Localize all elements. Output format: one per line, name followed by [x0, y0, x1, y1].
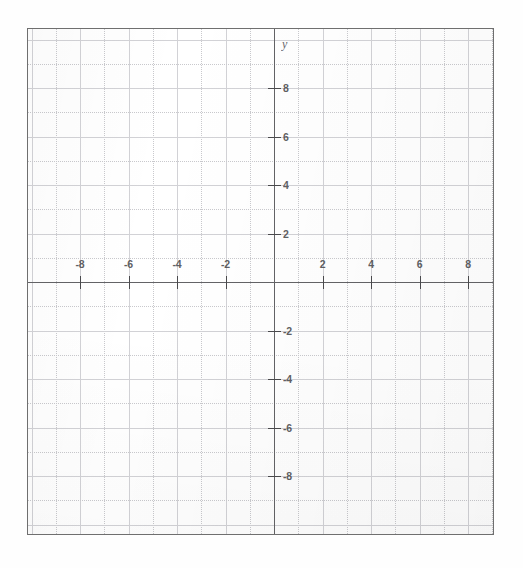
y-axis-label: y: [282, 37, 287, 52]
y-axis-tick-label: 6: [283, 131, 289, 143]
coordinate-plane-frame: -8-6-4-224688642-2-4-6-8 y x: [27, 28, 494, 535]
y-axis-tick-label: -4: [283, 373, 292, 385]
y-axis-tick-label: -2: [283, 325, 292, 337]
y-axis-tick-label: -8: [283, 470, 292, 482]
y-axis-tick: [268, 428, 281, 429]
x-axis-tick-label: -2: [221, 258, 230, 270]
y-axis-tick: [268, 331, 281, 332]
x-axis-tick-label: 8: [465, 258, 471, 270]
x-axis-tick: [177, 276, 178, 289]
y-axis-line: [274, 29, 275, 534]
x-axis-tick-label: 6: [417, 258, 423, 270]
y-axis-tick-label: -6: [283, 422, 292, 434]
y-axis-tick: [268, 185, 281, 186]
x-axis-tick-label: 4: [368, 258, 374, 270]
x-axis-tick: [420, 276, 421, 289]
x-axis-tick: [468, 276, 469, 289]
x-axis-tick-label: -6: [124, 258, 133, 270]
y-axis-tick: [268, 88, 281, 89]
x-axis-tick: [371, 276, 372, 289]
y-axis-tick: [268, 476, 281, 477]
x-axis-tick: [80, 276, 81, 289]
y-axis-tick-label: 4: [283, 179, 289, 191]
x-axis-tick-label: -8: [76, 258, 85, 270]
x-axis-tick: [323, 276, 324, 289]
y-axis-tick: [268, 234, 281, 235]
y-axis-tick: [268, 379, 281, 380]
y-axis-tick-label: 2: [283, 228, 289, 240]
x-axis-tick-label: 2: [320, 258, 326, 270]
x-axis-tick: [129, 276, 130, 289]
y-axis-tick: [268, 137, 281, 138]
y-axis-tick-label: 8: [283, 82, 289, 94]
x-axis-tick-label: -4: [173, 258, 182, 270]
x-axis-tick: [226, 276, 227, 289]
scanned-graph-page: -8-6-4-224688642-2-4-6-8 y x: [0, 0, 523, 568]
x-axis-line: [28, 282, 493, 283]
